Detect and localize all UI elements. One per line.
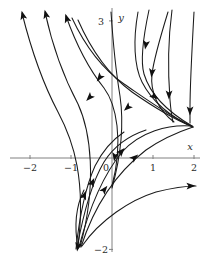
phase-plot-canvas: −2−10123−2xy [0,0,210,263]
flow-direction-arrow-icon [148,68,156,78]
x-tick-label: −1 [64,162,78,173]
y-tick-label: 3 [98,16,104,27]
x-axis-name-label: x [187,141,193,152]
trajectory-curve [72,18,193,127]
trajectory-curve [22,13,81,247]
trajectory-curve [82,186,196,246]
arrowhead-shape [18,10,27,20]
flow-direction-arrow-icon [18,10,27,20]
trajectory-curve [169,10,173,122]
axes-group [10,8,200,252]
y-tick-label: −2 [94,244,108,255]
flow-direction-arrow-icon [122,102,133,113]
arrowhead-shape [129,152,140,163]
trajectory-curve [45,12,91,247]
trajectory-curves-group [22,10,196,249]
flow-direction-arrow-icon [62,13,71,24]
trajectory-curve [142,10,192,126]
arrowhead-shape [84,92,95,103]
arrowhead-shape [148,68,156,78]
x-tick-label: 1 [150,162,156,173]
flow-direction-arrow-icon [84,92,95,103]
flow-direction-arrow-icon [129,152,140,163]
axis-labels-group: −2−10123−2xy [23,12,197,255]
trajectory-curve [66,16,118,186]
y-axis-name-label: y [117,12,124,23]
trajectory-curve [190,12,194,123]
trajectory-curve [135,12,192,126]
arrowhead-shape [62,13,71,24]
x-tick-label: 0 [103,162,109,173]
phase-portrait-figure: −2−10123−2xy [0,0,210,263]
trajectory-curve [81,127,193,247]
x-tick-label: 2 [191,162,197,173]
arrowhead-shape [122,102,133,113]
x-tick-label: −2 [23,162,37,173]
